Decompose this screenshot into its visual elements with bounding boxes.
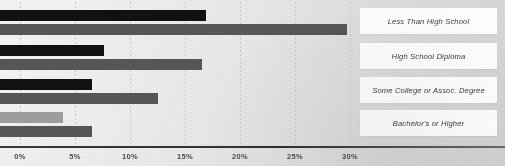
x-tick-label-15pct: 15% <box>177 152 193 161</box>
gridline-30pct <box>350 2 351 147</box>
x-tick-label-30pct: 30% <box>342 152 358 161</box>
bar-4-series-2 <box>0 126 92 137</box>
category-label-card-3: Some College or Assoc. Degree <box>360 77 497 103</box>
bar-1-series-1 <box>0 10 206 21</box>
x-tick-label-5pct: 5% <box>69 152 81 161</box>
category-label-text: High School Diploma <box>392 52 466 61</box>
x-axis-tick-labels: 0%5%10%15%20%25%30% <box>0 152 360 166</box>
x-tick-label-10pct: 10% <box>122 152 138 161</box>
category-label-cards: Less Than High SchoolHigh School Diploma… <box>358 0 505 147</box>
category-label-card-4: Bachelor's or Higher <box>360 110 497 136</box>
bar-2-series-1 <box>0 45 104 56</box>
category-label-card-2: High School Diploma <box>360 43 497 69</box>
x-tick-label-20pct: 20% <box>232 152 248 161</box>
x-tick-label-0pct: 0% <box>14 152 26 161</box>
bar-2-series-2 <box>0 59 202 70</box>
plot-area <box>0 0 360 147</box>
category-label-card-1: Less Than High School <box>360 8 497 34</box>
category-label-text: Bachelor's or Higher <box>393 119 465 128</box>
bar-3-series-1 <box>0 79 92 90</box>
category-label-text: Less Than High School <box>388 17 470 26</box>
bar-3-series-2 <box>0 93 158 104</box>
x-tick-label-25pct: 25% <box>287 152 303 161</box>
bar-chart: 0%5%10%15%20%25%30% Less Than High Schoo… <box>0 0 505 166</box>
bar-1-series-2 <box>0 24 347 35</box>
bar-4-series-1 <box>0 112 63 123</box>
category-label-text: Some College or Assoc. Degree <box>372 86 485 95</box>
